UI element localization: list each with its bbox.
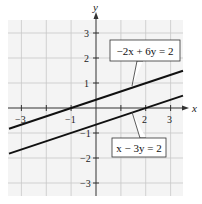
y-tick-label: 2	[84, 53, 89, 64]
y-tick-label: 3	[84, 28, 89, 39]
y-tick-label: −2	[80, 153, 91, 164]
x-axis-arrow-icon	[182, 106, 189, 111]
y-axis-arrow-icon	[94, 12, 99, 19]
x-axis-label: x	[191, 102, 197, 114]
y-tick-label: −3	[80, 178, 91, 189]
x-tick-label: −1	[65, 114, 76, 125]
x-tick-label: 3	[167, 114, 172, 125]
graph: x y −3 −1 2 3 3 2 1 −1 −2 −3 −2x + 6y = …	[0, 0, 202, 204]
equation-label-1: −2x + 6y = 2	[116, 45, 173, 57]
y-tick-label: 1	[84, 78, 89, 89]
y-axis-label: y	[92, 1, 98, 13]
x-tick-label: 2	[142, 114, 147, 125]
equation-label-2: x − 3y = 2	[116, 142, 161, 154]
